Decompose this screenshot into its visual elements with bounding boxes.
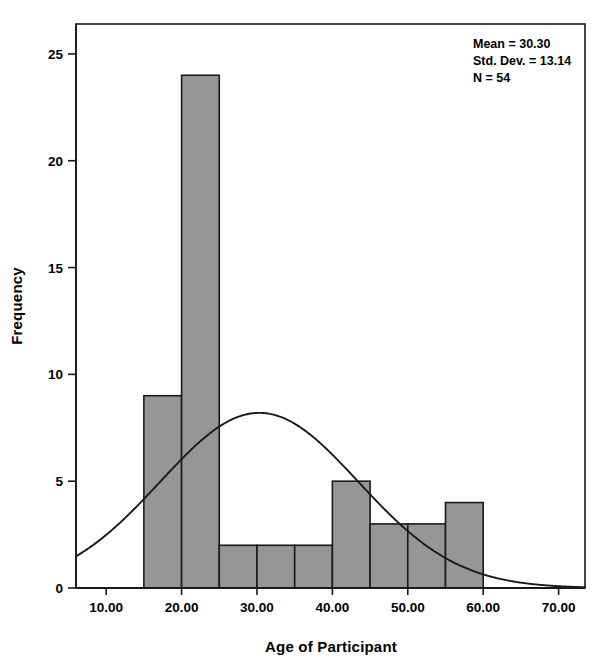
y-tick-label: 10 [48,367,63,382]
histogram-bar [257,545,295,588]
histogram-bar [182,75,220,588]
histogram-bar [370,524,408,588]
mean-label: Mean = 30.30 [473,37,551,51]
histogram-bar [445,503,483,588]
y-tick-label: 5 [55,474,63,489]
x-axis-title: Age of Participant [265,638,397,655]
histogram-bar [408,524,446,588]
histogram-chart: 10.0020.0030.0040.0050.0060.0070.00 0510… [0,0,614,667]
x-tick-label: 70.00 [542,600,576,615]
y-tick-label: 20 [48,154,63,169]
x-tick-label: 40.00 [315,600,349,615]
y-tick-label: 15 [48,261,64,276]
x-tick-label: 10.00 [89,600,123,615]
y-tick-label: 25 [48,47,64,62]
sample-size-label: N = 54 [473,71,510,85]
y-axis-title: Frequency [8,267,25,345]
x-tick-label: 30.00 [240,600,274,615]
x-tick-label: 50.00 [391,600,425,615]
y-tick-label: 0 [55,581,63,596]
chart-canvas: 10.0020.0030.0040.0050.0060.0070.00 0510… [0,0,614,667]
histogram-bar [219,545,257,588]
std-dev-label: Std. Dev. = 13.14 [473,54,571,68]
histogram-bar [332,481,370,588]
x-tick-label: 20.00 [165,600,199,615]
histogram-bar [295,545,333,588]
x-tick-label: 60.00 [466,600,500,615]
